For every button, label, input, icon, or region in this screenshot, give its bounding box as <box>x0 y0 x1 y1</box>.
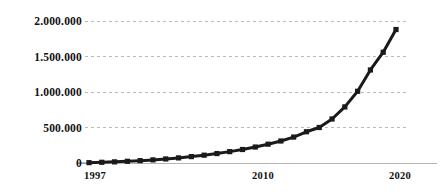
data-point-marker <box>329 116 334 121</box>
data-point-marker <box>138 158 143 163</box>
data-point-marker <box>227 149 232 154</box>
data-point-marker <box>150 157 155 162</box>
data-point-marker <box>112 159 117 164</box>
data-point-marker <box>99 160 104 165</box>
chart-container: 0500.0001.000.0001.500.0002.000.000 1997… <box>0 0 443 194</box>
data-point-marker <box>86 160 91 165</box>
data-point-marker <box>304 129 309 134</box>
data-point-marker <box>202 153 207 158</box>
y-tick-label: 1.000.000 <box>34 86 82 98</box>
x-tick-label-2010: 2010 <box>252 170 274 181</box>
x-tick-label-2020: 2020 <box>389 170 411 181</box>
series-line <box>89 30 396 163</box>
data-point-marker <box>189 154 194 159</box>
data-point-marker <box>278 138 283 143</box>
data-point-marker <box>368 67 373 72</box>
data-point-marker <box>163 156 168 161</box>
y-tick-label: 2.000.000 <box>34 15 82 27</box>
data-point-marker <box>125 159 130 164</box>
data-point-marker <box>291 134 296 139</box>
data-point-marker <box>176 155 181 160</box>
data-point-marker <box>355 89 360 94</box>
gridlines-group <box>85 21 408 128</box>
data-point-marker <box>253 144 258 149</box>
x-tick-label-1997: 1997 <box>84 170 106 181</box>
data-point-marker <box>342 104 347 109</box>
data-series-line <box>89 30 396 163</box>
data-point-marker <box>265 142 270 147</box>
data-point-marker <box>393 27 398 32</box>
data-point-marker <box>240 147 245 152</box>
data-point-marker <box>214 151 219 156</box>
y-tick-label: 1.500.000 <box>34 51 82 63</box>
data-point-marker <box>381 50 386 55</box>
y-tick-label: 500.000 <box>43 122 82 134</box>
data-point-marker <box>317 125 322 130</box>
y-tick-label: 0 <box>76 157 82 169</box>
